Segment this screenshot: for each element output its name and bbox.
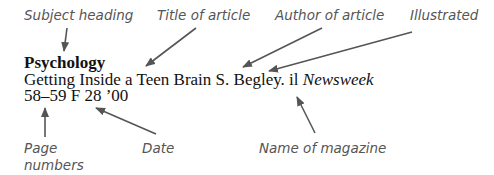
arrow-author-of-article-icon: [243, 28, 322, 67]
callout-arrows: [0, 0, 494, 175]
arrow-subject-heading-icon: [64, 28, 67, 51]
arrow-date-icon: [96, 108, 156, 134]
arrow-title-of-article-icon: [146, 28, 196, 66]
arrow-name-of-magazine-icon: [297, 97, 315, 133]
arrow-illustrated-icon: [269, 32, 412, 71]
